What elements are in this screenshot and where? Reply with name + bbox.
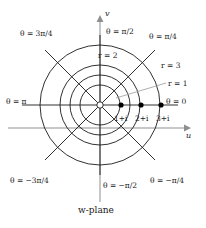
origin-marker <box>97 102 103 108</box>
u-axis-label: u <box>186 132 191 140</box>
circle-label-r-2: r = 2 <box>98 52 117 60</box>
point-3-plus-i <box>158 102 163 107</box>
ray-label-theta-minus-3pi-4: θ = −3π/4 <box>10 177 49 185</box>
circle-label-r-3: r = 3 <box>161 62 180 70</box>
ray-theta-minus-3pi-4 <box>45 105 100 160</box>
ray-label-theta-pi-4: θ = π/4 <box>149 33 177 41</box>
point-label-1-plus-i: 1+i <box>114 115 127 123</box>
ray-label-theta-pi-2: θ = π/2 <box>106 28 134 36</box>
circle-label-r-1: r = 1 <box>168 80 187 88</box>
ray-label-theta-0: θ = 0 <box>166 98 186 106</box>
ray-label-theta-pi: θ = π <box>6 98 27 106</box>
ray-theta-3pi-4 <box>45 50 100 105</box>
point-label-2-plus-i: 2+i <box>135 115 148 123</box>
ray-label-theta-3pi-4: θ = 3π/4 <box>20 30 53 38</box>
axes-group <box>8 22 184 202</box>
v-axis-arrowhead <box>97 15 104 22</box>
figure-caption: w-plane <box>78 206 114 215</box>
point-2-plus-i <box>138 102 143 107</box>
w-plane-figure: v u θ = 3π/4 θ = π/2 θ = π/4 θ = π θ = 0… <box>0 0 206 228</box>
point-1-plus-i <box>118 102 123 107</box>
v-axis-label: v <box>105 10 110 18</box>
ray-label-theta-minus-pi-2: θ = −π/2 <box>103 182 137 190</box>
point-label-3-plus-i: 3+i <box>156 115 169 123</box>
ray-label-theta-minus-pi-4: θ = −π/4 <box>150 177 184 185</box>
